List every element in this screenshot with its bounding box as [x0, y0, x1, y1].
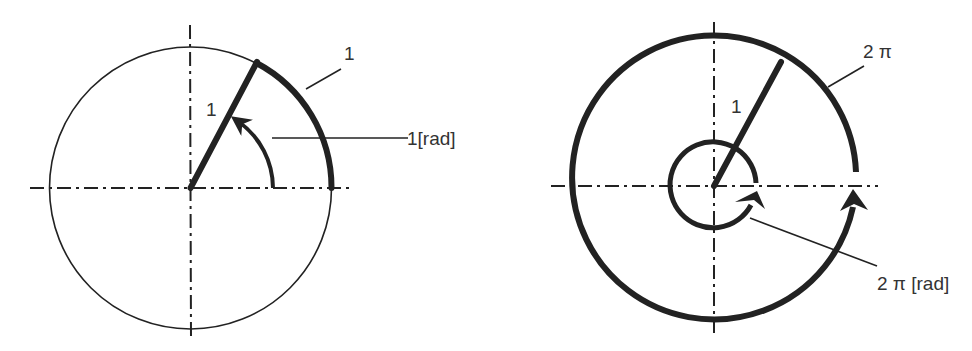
left-diagram	[30, 25, 408, 338]
right-diagram	[551, 22, 878, 335]
left-radius-label: 1	[206, 100, 217, 119]
radian-diagram-canvas	[0, 0, 972, 351]
right-arc-label: 2 π	[863, 42, 892, 61]
left-arc-label: 1	[344, 44, 355, 63]
right-angle-label: 2 π [rad]	[877, 274, 949, 293]
left-arc-leader	[306, 69, 341, 89]
right-arc-leader	[828, 66, 864, 87]
right-radius-line	[714, 62, 781, 186]
left-angle-arrow	[239, 122, 273, 188]
right-angle-leader	[750, 218, 877, 266]
left-radius-line	[191, 62, 258, 188]
left-angle-label: 1[rad]	[407, 129, 456, 148]
right-radius-label: 1	[731, 97, 742, 116]
